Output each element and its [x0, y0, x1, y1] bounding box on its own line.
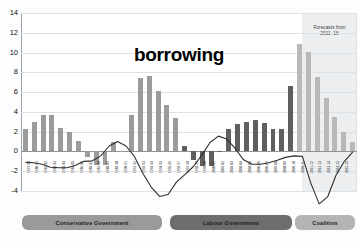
government-band[interactable]: Coalition	[295, 215, 355, 230]
y-axis-tick-label: 4	[2, 108, 18, 116]
government-band[interactable]: Labour Government	[170, 215, 292, 230]
chart-root: Forecasts from 2011–16 14121086420-2-4 1…	[0, 0, 358, 243]
chart-title: borrowing	[0, 44, 358, 66]
gridline	[21, 191, 357, 192]
government-band[interactable]: Conservative Government	[22, 215, 162, 230]
government-band-label: Coalition	[312, 220, 337, 226]
y-axis-tick-label: 14	[2, 9, 18, 17]
line-series	[21, 13, 357, 191]
y-axis-tick-label: 8	[2, 68, 18, 76]
y-axis-tick-label: 0	[2, 147, 18, 155]
line-path	[25, 136, 353, 204]
y-axis-tick-label: 6	[2, 88, 18, 96]
government-band-label: Conservative Government	[55, 220, 128, 226]
government-band-label: Labour Government	[203, 220, 259, 226]
y-axis-tick-label: 2	[2, 128, 18, 136]
y-axis-tick-label: 12	[2, 29, 18, 37]
y-axis-tick-label: -2	[2, 167, 18, 175]
y-axis-tick-label: -4	[2, 187, 18, 195]
